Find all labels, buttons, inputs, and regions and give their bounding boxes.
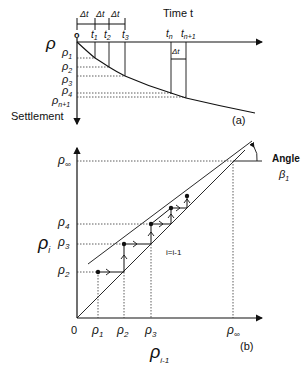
svg-text:tn+1: tn+1 <box>181 28 196 40</box>
svg-text:ρ1: ρ1 <box>61 46 72 60</box>
panel-b: i=i-1 Angle β1 ρ∞ ρ4 ρ3 ρ2 ρi 0 ρ1 ρ2 ρ3… <box>37 141 300 365</box>
angle-arc-icon <box>254 147 257 161</box>
delta-t-label-3: Δt <box>110 9 120 19</box>
angle-symbol: β1 <box>278 168 289 182</box>
svg-text:ρ3: ρ3 <box>144 323 157 339</box>
settlement-dotted-lines <box>77 58 186 97</box>
svg-text:ρ3: ρ3 <box>57 235 70 251</box>
y-tick-labels: ρ∞ ρ4 ρ3 ρ2 <box>57 153 71 279</box>
svg-text:t3: t3 <box>122 29 129 41</box>
delta-t-label-1: Δt <box>79 9 89 19</box>
settlement-axis-title: Settlement <box>11 110 64 122</box>
iteration-staircase <box>98 196 187 272</box>
time-axis-title: Time t <box>163 7 193 19</box>
svg-text:ρ2: ρ2 <box>116 323 129 339</box>
fitted-line <box>88 141 252 264</box>
y-axis-label-b: ρi <box>37 233 51 255</box>
svg-text:ρ4: ρ4 <box>57 215 70 231</box>
svg-text:ρ2: ρ2 <box>57 263 70 279</box>
svg-text:tn: tn <box>166 28 173 40</box>
identity-line <box>77 150 245 318</box>
settlement-symbol: ρ <box>45 34 56 53</box>
angle-label: Angle <box>272 153 300 164</box>
svg-text:ρ1: ρ1 <box>91 323 103 339</box>
iteration-points <box>96 194 189 274</box>
delta-t-brackets <box>77 18 125 30</box>
x-tick-labels: ρ1 ρ2 ρ3 ρ∞ <box>91 323 240 339</box>
svg-text:t2: t2 <box>104 29 111 41</box>
x-axis-label-b: ρi-1 <box>149 342 169 365</box>
origin-label-a: o <box>74 30 80 40</box>
panel-b-caption: (b) <box>240 340 253 352</box>
settlement-diagram: Δt Δt Δt Time t o t1 t2 t3 tn tn+1 ρ Set… <box>0 0 303 368</box>
panel-a: Δt Δt Δt Time t o t1 t2 t3 tn tn+1 ρ Set… <box>11 7 262 126</box>
panel-a-caption: (a) <box>232 114 245 126</box>
delta-t-label-n: Δt <box>171 47 180 56</box>
svg-text:ρ∞: ρ∞ <box>226 323 240 339</box>
staircase-arrow-icons <box>106 199 190 275</box>
delta-t-label-2: Δt <box>95 9 105 19</box>
svg-text:ρ2: ρ2 <box>61 60 72 74</box>
identity-line-label: i=i-1 <box>166 248 182 257</box>
svg-text:ρ∞: ρ∞ <box>57 153 71 169</box>
origin-label-b: 0 <box>71 324 77 336</box>
settlement-curve <box>77 42 255 113</box>
settlement-labels: ρ1 ρ2 ρ3 ρ4 ρn+1 <box>51 46 72 108</box>
svg-text:t1: t1 <box>91 29 98 41</box>
time-tick-labels: t1 t2 t3 tn tn+1 <box>91 28 196 41</box>
